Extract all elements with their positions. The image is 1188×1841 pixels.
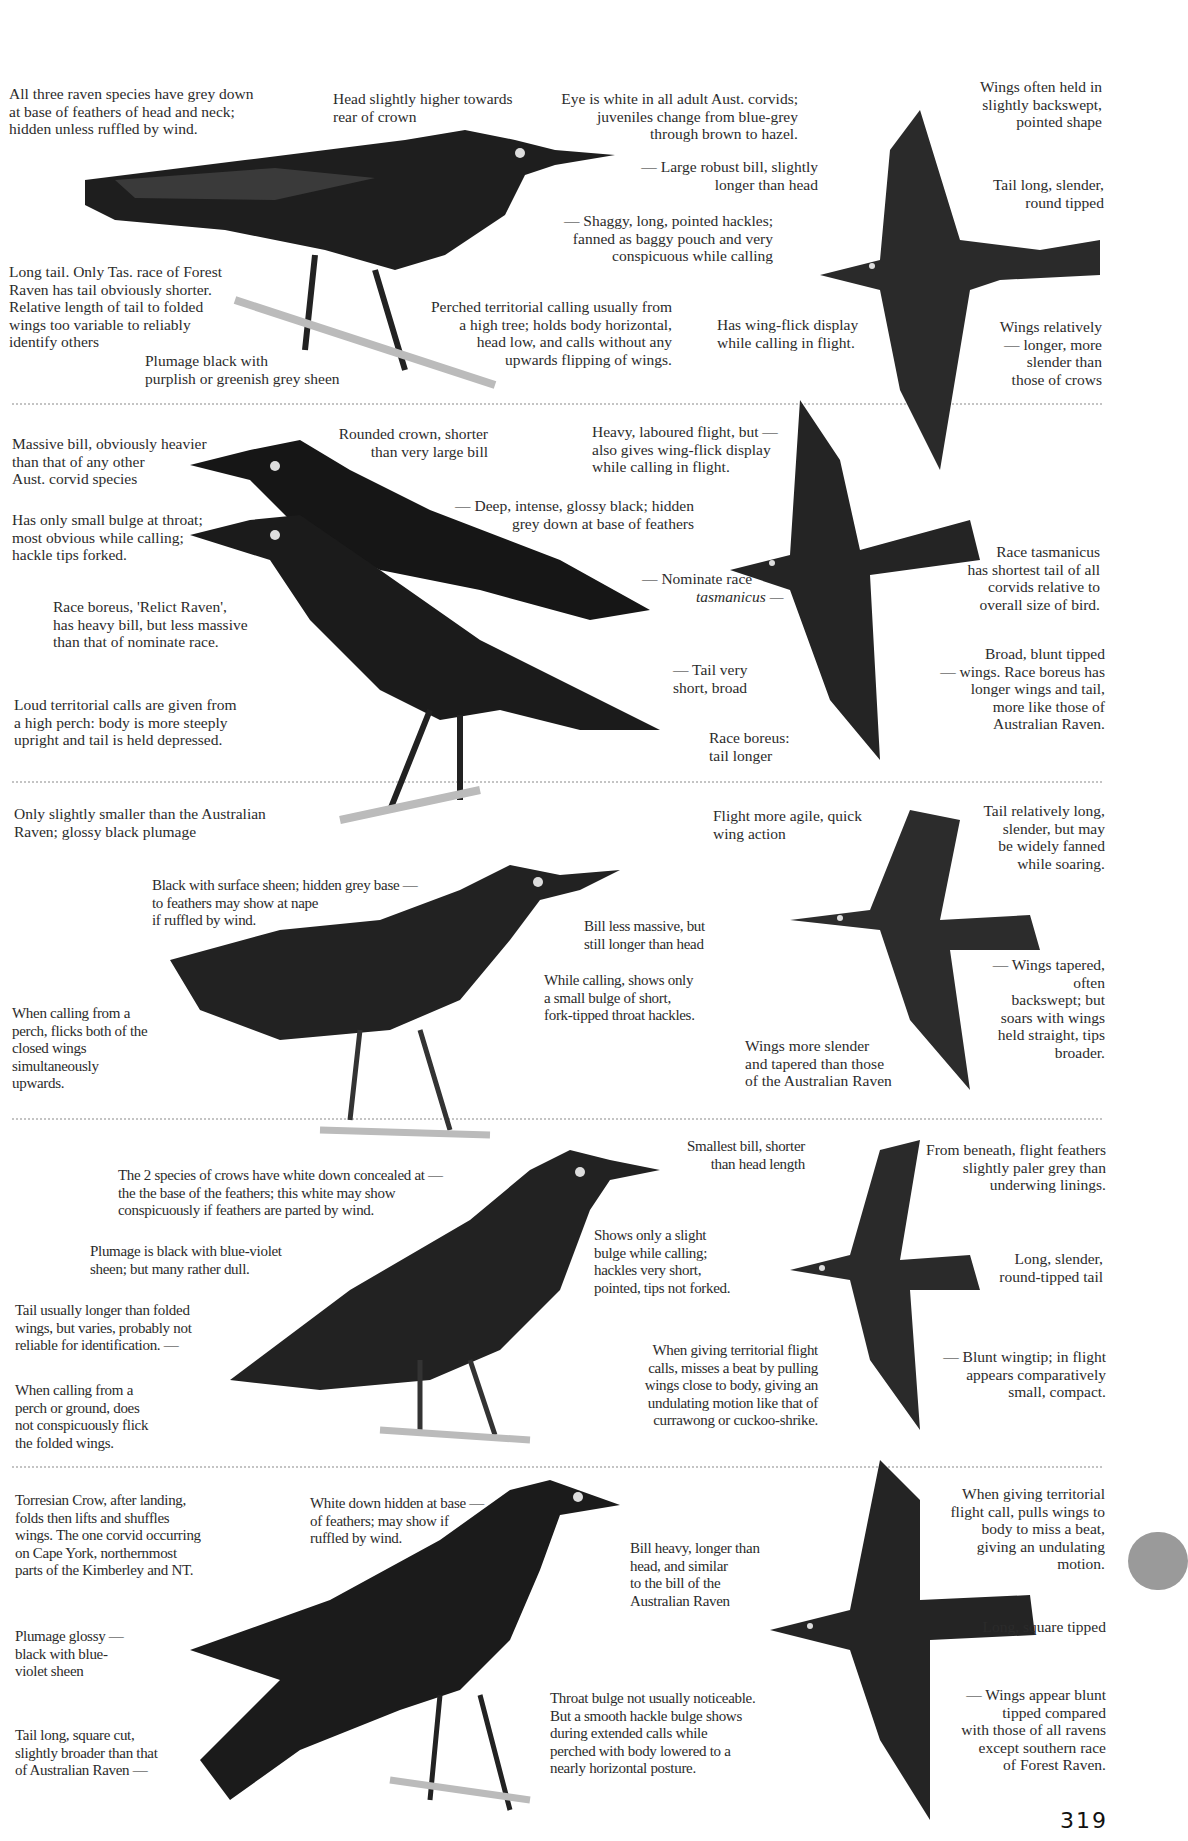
annotation: The 2 species of crows have white down c… [118, 1167, 443, 1220]
annotation: — Shaggy, long, pointed hackles; fanned … [540, 212, 773, 265]
annotation: Race boreus: tail longer [709, 729, 789, 764]
annotation: Wings relatively — longer, more slender … [980, 318, 1102, 388]
annotation: Eye is white in all adult Aust. corvids;… [550, 90, 798, 143]
annotation: Wings often held in slightly backswept, … [950, 78, 1102, 131]
annotation: When calling from a perch, flicks both o… [12, 1005, 147, 1093]
annotation: Plumage glossy — black with blue- violet… [15, 1628, 124, 1681]
annotation: Broad, blunt tipped — wings. Race boreus… [920, 645, 1105, 733]
annotation: Head slightly higher towards rear of cro… [333, 90, 513, 125]
annotation: — Deep, intense, glossy black; hidden gr… [430, 497, 694, 532]
annotation: Tail usually longer than folded wings, b… [15, 1302, 192, 1355]
annotation: When giving territorial flight call, pul… [940, 1485, 1105, 1573]
annotation: Flight more agile, quick wing action [713, 807, 862, 842]
annotation: From beneath, flight feathers slightly p… [900, 1141, 1106, 1194]
annotation: Shows only a slight bulge while calling;… [594, 1227, 730, 1297]
annotation: — Large robust bill, slightly longer tha… [600, 158, 818, 193]
annotation: Tail long, slender, round tipped [960, 176, 1104, 211]
annotation: Long, slender, round-tipped tail [960, 1250, 1103, 1285]
annotation: Only slightly smaller than the Australia… [14, 805, 266, 840]
annotation: Massive bill, obviously heavier than tha… [12, 435, 207, 488]
annotation: All three raven species have grey down a… [9, 85, 253, 138]
annotation: Wings more slender and tapered than thos… [745, 1037, 892, 1090]
annotation: Has only small bulge at throat; most obv… [12, 511, 203, 564]
annotation: Bill less massive, but still longer than… [584, 918, 705, 953]
page-number: 319 [1060, 1808, 1108, 1833]
thumb-index-tab [1128, 1532, 1188, 1590]
annotation: Smallest bill, shorter than head length [640, 1138, 805, 1173]
annotation: Plumage black with purplish or greenish … [145, 352, 340, 387]
annotation: tasmanicus — [696, 588, 783, 606]
annotation: Throat bulge not usually noticeable. But… [550, 1690, 755, 1778]
annotation: Bill heavy, longer than head, and simila… [630, 1540, 760, 1610]
annotation: — Nominate race [642, 570, 752, 588]
annotation: Loud territorial calls are given from a … [14, 696, 237, 749]
annotation: — Wings appear blunt tipped compared wit… [940, 1686, 1106, 1774]
annotation: Tail relatively long, slender, but may b… [960, 802, 1105, 872]
annotation: Heavy, laboured flight, but — also gives… [592, 423, 778, 476]
annotation: White down hidden at base — of feathers;… [310, 1495, 484, 1548]
annotation: Rounded crown, shorter than very large b… [300, 425, 488, 460]
annotation: Black with surface sheen; hidden grey ba… [152, 877, 417, 930]
annotation: Race boreus, 'Relict Raven', has heavy b… [53, 598, 248, 651]
annotation: Long, square tipped [960, 1618, 1106, 1636]
annotation: While calling, shows only a small bulge … [544, 972, 695, 1025]
annotation: Perched territorial calling usually from… [405, 298, 672, 368]
annotation-italic: tasmanicus — [696, 588, 783, 605]
annotation: When giving territorial flight calls, mi… [600, 1342, 818, 1430]
annotation: Tail long, square cut, slightly broader … [15, 1727, 158, 1780]
annotation: Long tail. Only Tas. race of Forest Rave… [9, 263, 222, 351]
annotation: Torresian Crow, after landing, folds the… [15, 1492, 201, 1580]
annotation: When calling from a perch or ground, doe… [15, 1382, 148, 1452]
annotation: — Tail very short, broad [673, 661, 747, 696]
annotation: Race tasmanicus has shortest tail of all… [920, 543, 1100, 613]
annotation: Plumage is black with blue-violet sheen;… [90, 1243, 282, 1278]
annotation: Has wing-flick display while calling in … [717, 316, 858, 351]
annotation: — Blunt wingtip; in flight appears compa… [920, 1348, 1106, 1401]
annotation: — Wings tapered, often backswept; but so… [960, 956, 1105, 1061]
